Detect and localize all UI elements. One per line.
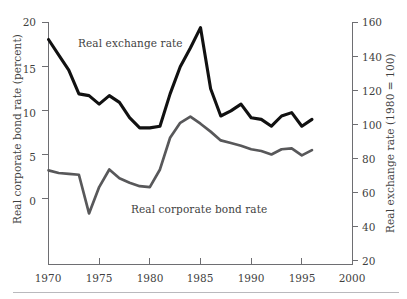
left-tick-label-15: 15	[12, 63, 36, 75]
x-tick-label-1970: 1970	[28, 272, 68, 284]
right-tick-label-20: 20	[362, 255, 388, 267]
right-tick-label-140: 140	[362, 51, 388, 63]
series-line-real-corporate-bond-rate	[49, 117, 312, 214]
axis-spines	[48, 22, 353, 265]
right-tick-label-80: 80	[362, 153, 388, 165]
page-divider-rule	[13, 292, 399, 293]
series-annotation-real-exchange-rate: Real exchange rate	[78, 37, 183, 49]
left-tick-label-20: 20	[12, 16, 36, 28]
left-axis-ticks	[42, 23, 48, 199]
left-tick-label-10: 10	[12, 107, 36, 119]
right-tick-label-40: 40	[362, 221, 388, 233]
chart-plot-area	[0, 0, 407, 299]
right-tick-label-160: 160	[362, 16, 388, 28]
x-tick-label-1990: 1990	[231, 272, 271, 284]
right-tick-label-120: 120	[362, 85, 388, 97]
left-tick-label-5: 5	[12, 151, 36, 163]
right-tick-label-100: 100	[362, 119, 388, 131]
x-tick-label-1985: 1985	[180, 272, 220, 284]
left-tick-label-0: 0	[12, 195, 36, 207]
x-tick-label-1975: 1975	[79, 272, 119, 284]
chart-figure: Real corporate bond rate (percent) Real …	[0, 0, 407, 299]
x-axis-ticks	[49, 258, 353, 264]
x-tick-label-2000: 2000	[332, 272, 372, 284]
x-tick-label-1980: 1980	[130, 272, 170, 284]
x-tick-label-1995: 1995	[282, 272, 322, 284]
series-annotation-real-corporate-bond-rate: Real corporate bond rate	[131, 203, 267, 215]
right-tick-label-60: 60	[362, 187, 388, 199]
